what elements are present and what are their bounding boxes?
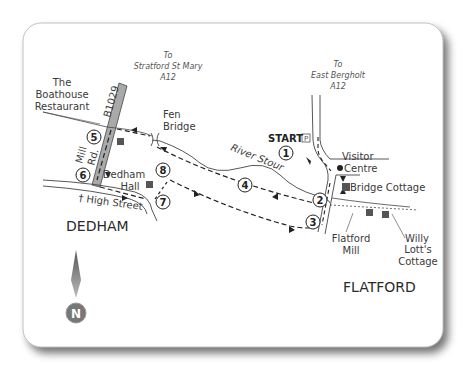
- dedham-hall-icon: [146, 181, 153, 188]
- svg-text:Centre: Centre: [344, 163, 377, 174]
- svg-text:Flatford: Flatford: [332, 233, 371, 244]
- town-dedham: DEDHAM: [66, 218, 129, 234]
- svg-text:A12: A12: [329, 82, 346, 91]
- visitor-centre-icon: [337, 165, 343, 171]
- svg-text:Mill: Mill: [343, 245, 360, 256]
- svg-text:N: N: [71, 307, 81, 321]
- svg-text:2: 2: [317, 195, 324, 206]
- svg-text:6: 6: [80, 170, 87, 181]
- waypoint-1: 1: [279, 146, 293, 160]
- svg-text:Fen: Fen: [163, 109, 181, 120]
- waypoint-5: 5: [87, 130, 101, 144]
- flatford-mill-icon: [366, 209, 373, 216]
- waypoint-4: 4: [238, 178, 252, 192]
- svg-text:Restaurant: Restaurant: [35, 101, 90, 112]
- svg-text:Cottage: Cottage: [398, 256, 438, 267]
- start-label: START: [268, 133, 303, 144]
- svg-text:Willy: Willy: [405, 233, 429, 244]
- bridge-cottage-label: Bridge Cottage: [350, 182, 425, 193]
- svg-text:The: The: [52, 77, 72, 88]
- svg-text:Hall: Hall: [120, 181, 139, 192]
- svg-text:A12: A12: [159, 73, 176, 82]
- svg-text:Bridge: Bridge: [163, 121, 196, 132]
- svg-text:3: 3: [310, 217, 317, 228]
- waypoint-7: 7: [156, 195, 170, 209]
- town-flatford: FLATFORD: [343, 279, 416, 295]
- svg-text:Visitor: Visitor: [342, 151, 374, 162]
- svg-text:Boathouse: Boathouse: [35, 89, 88, 100]
- visitor-centre-label: Visitor Centre: [342, 151, 377, 174]
- willy-lotts-icon: [382, 211, 389, 218]
- svg-text:Stratford St Mary: Stratford St Mary: [134, 62, 203, 71]
- svg-text:5: 5: [91, 132, 98, 143]
- svg-text:7: 7: [160, 197, 167, 208]
- walk-map: P 1 2 3 4 5 6 7 8 To Stratford St Mary A…: [0, 0, 473, 381]
- waypoint-6: 6: [76, 168, 90, 182]
- waypoint-8: 8: [156, 163, 170, 177]
- waypoint-3: 3: [306, 215, 320, 229]
- svg-text:1: 1: [283, 148, 290, 159]
- bridge-cottage-icon: [342, 183, 350, 191]
- svg-text:4: 4: [242, 180, 249, 191]
- svg-text:East Bergholt: East Bergholt: [311, 71, 366, 80]
- svg-text:Lott's: Lott's: [404, 244, 431, 255]
- svg-text:P: P: [304, 135, 308, 143]
- boathouse-building-icon: [117, 138, 124, 145]
- svg-text:Dedham: Dedham: [103, 169, 145, 180]
- svg-text:To: To: [334, 60, 343, 69]
- svg-text:To: To: [164, 51, 173, 60]
- svg-text:8: 8: [160, 165, 167, 176]
- waypoint-2: 2: [313, 193, 327, 207]
